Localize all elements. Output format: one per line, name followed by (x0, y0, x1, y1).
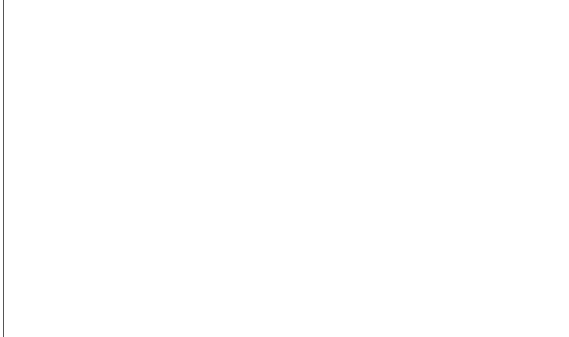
structural-grid-plan (0, 0, 569, 337)
